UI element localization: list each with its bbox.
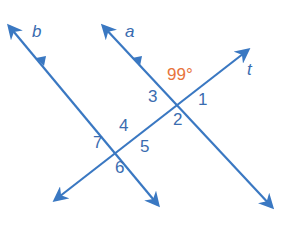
angle-label-7: 7 bbox=[93, 133, 102, 152]
line-label-a: a bbox=[125, 22, 134, 41]
line-t bbox=[55, 50, 248, 200]
angle-label-5: 5 bbox=[140, 137, 149, 156]
parallel-lines-diagram: b a t 99° 1 2 3 4 5 6 7 bbox=[0, 0, 293, 235]
line-label-b: b bbox=[32, 22, 41, 41]
given-angle-label: 99° bbox=[167, 65, 193, 84]
angle-label-1: 1 bbox=[198, 90, 207, 109]
angle-label-6: 6 bbox=[115, 158, 124, 177]
angle-label-4: 4 bbox=[119, 116, 128, 135]
line-label-t: t bbox=[247, 60, 253, 79]
angle-label-2: 2 bbox=[173, 110, 182, 129]
angle-label-3: 3 bbox=[148, 87, 157, 106]
